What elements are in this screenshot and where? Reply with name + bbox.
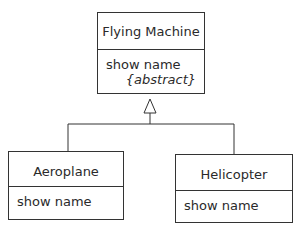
class-flying-machine[interactable]: Flying Machine show name {abstract} (97, 12, 205, 94)
divider (98, 49, 204, 50)
operation: show name (184, 198, 259, 213)
class-aeroplane[interactable]: Aeroplane show name (8, 151, 124, 220)
class-name: Flying Machine (98, 24, 204, 39)
operation: show name (106, 57, 181, 72)
class-name: Aeroplane (9, 164, 123, 179)
inheritance-arrow-icon (144, 99, 156, 113)
divider (9, 186, 123, 187)
operation: show name (17, 194, 92, 209)
class-helicopter[interactable]: Helicopter show name (175, 154, 293, 223)
abstract-constraint: {abstract} (126, 72, 196, 87)
class-name: Helicopter (176, 167, 292, 182)
divider (176, 190, 292, 191)
